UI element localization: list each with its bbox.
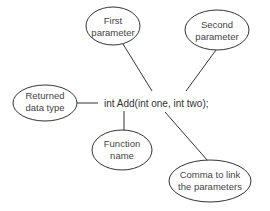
connector-second-parameter [186,50,216,91]
callout-returned-data-type-line1: Returned [25,90,64,101]
callout-comma: Comma to link the parameters [169,160,251,202]
callout-returned-data-type: Returned data type [13,85,77,121]
connector-first-parameter [123,44,152,91]
callout-function-name-line1: Function [104,138,140,149]
callout-second-parameter-line1: Second [201,19,233,30]
callout-first-parameter-line1: First [104,15,123,26]
callout-first-parameter: First parameter [86,7,140,45]
connector-comma [165,112,208,161]
callout-function-name-line2: name [110,150,134,161]
callout-returned-data-type-line2: data type [25,102,64,113]
callout-second-parameter-line2: parameter [195,31,238,42]
function-declaration-diagram: First parameter Second parameter Returne… [0,0,270,211]
callout-function-name: Function name [92,130,152,170]
callout-second-parameter: Second parameter [185,10,249,50]
code-declaration: int Add(int one, int two); [104,98,209,109]
callout-first-parameter-line2: parameter [91,27,134,38]
callout-comma-line1: Comma to link [180,169,241,180]
callout-comma-line2: the parameters [178,181,242,192]
